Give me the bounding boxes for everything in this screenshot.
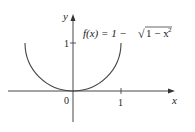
y-axis-arrow-icon (71, 14, 76, 21)
radical-icon: √ (138, 27, 145, 41)
function-label-lhs: f(x) = 1 − (83, 27, 127, 40)
x-axis-arrow-icon (168, 89, 175, 94)
x-axis-label: x (171, 94, 177, 106)
function-label-exponent: 2 (168, 26, 172, 34)
plot: y x 1 1 0 f(x) = 1 − √ 1 − x 2 (0, 0, 195, 132)
function-label: f(x) = 1 − √ 1 − x 2 (83, 26, 172, 41)
y-tick-label-1: 1 (64, 38, 69, 49)
function-label-radicand: 1 − x (146, 27, 169, 39)
y-axis-label: y (62, 10, 68, 22)
origin-label: 0 (64, 95, 69, 106)
x-tick-label-1: 1 (118, 97, 123, 108)
